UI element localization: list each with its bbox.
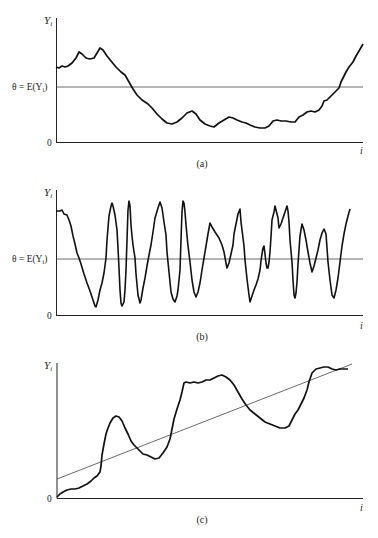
series-line <box>56 44 363 128</box>
panel-caption: (b) <box>196 331 208 343</box>
figure-canvas: Yi θ = E(Yi) 0 i (a) Yi θ = E(Yi) 0 i (b… <box>0 0 378 538</box>
zero-label: 0 <box>47 311 52 321</box>
series-line <box>57 367 348 497</box>
panel-c: Yi 0 i (c) <box>44 359 363 526</box>
mean-label: θ = E(Yi) <box>12 82 47 93</box>
y-axis-label: Yi <box>44 186 52 200</box>
zero-label: 0 <box>47 138 52 148</box>
panel-b: Yi θ = E(Yi) 0 i (b) <box>12 186 363 343</box>
x-axis-label: i <box>360 502 363 513</box>
y-axis-label: Yi <box>44 14 52 28</box>
panel-caption: (c) <box>196 514 207 526</box>
zero-label: 0 <box>47 494 52 504</box>
x-axis-label: i <box>360 320 363 331</box>
series-line <box>56 201 350 307</box>
panel-a: Yi θ = E(Yi) 0 i (a) <box>12 14 363 170</box>
panel-caption: (a) <box>196 158 207 170</box>
y-axis-label: Yi <box>44 359 52 373</box>
mean-label: θ = E(Yi) <box>12 254 47 265</box>
x-axis-label: i <box>360 145 363 156</box>
